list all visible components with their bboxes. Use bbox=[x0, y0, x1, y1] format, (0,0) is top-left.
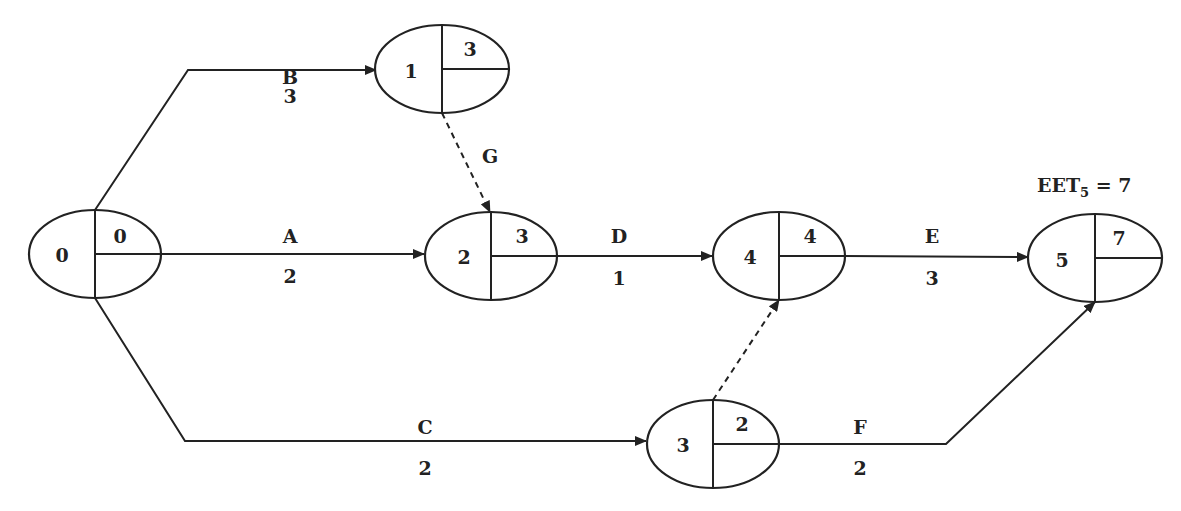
activity-c-label: C bbox=[417, 416, 432, 438]
node-0: 0 0 bbox=[29, 210, 161, 298]
activity-d-duration: 1 bbox=[612, 267, 625, 289]
activity-b-duration: 3 bbox=[283, 85, 296, 107]
activity-b-arrow bbox=[95, 70, 376, 210]
node-2: 2 3 bbox=[425, 212, 557, 300]
activity-f-arrow bbox=[779, 302, 1095, 444]
node-2-id: 2 bbox=[457, 246, 470, 268]
node-2-eet: 3 bbox=[515, 225, 528, 247]
node-5-id: 5 bbox=[1055, 249, 1068, 271]
activity-f-duration: 2 bbox=[853, 457, 866, 479]
eet-annotation: EET5 = 7 bbox=[1037, 174, 1132, 200]
activity-c-arrow bbox=[95, 298, 646, 441]
node-5: 5 7 bbox=[1028, 214, 1162, 302]
node-1-eet: 3 bbox=[463, 38, 476, 60]
activity-e-duration: 3 bbox=[925, 267, 938, 289]
node-0-eet: 0 bbox=[113, 225, 126, 247]
node-3-id: 3 bbox=[676, 434, 689, 456]
node-4-eet: 4 bbox=[803, 225, 816, 247]
node-0-id: 0 bbox=[55, 244, 68, 266]
activity-f-label: F bbox=[853, 416, 867, 438]
network-diagram: B 3 A 2 C 2 G D 1 E 3 F 2 0 0 1 3 2 3 4 … bbox=[0, 0, 1181, 511]
node-1: 1 3 bbox=[375, 25, 509, 113]
activity-e-arrow bbox=[845, 256, 1028, 257]
activity-e-label: E bbox=[925, 225, 939, 247]
activity-a-label: A bbox=[282, 225, 298, 247]
node-4: 4 4 bbox=[713, 212, 845, 300]
activity-c-duration: 2 bbox=[418, 457, 431, 479]
dummy-g-label: G bbox=[482, 145, 498, 167]
node-1-id: 1 bbox=[404, 60, 417, 82]
node-3: 3 2 bbox=[647, 400, 779, 488]
activity-d-label: D bbox=[611, 225, 627, 247]
node-4-id: 4 bbox=[743, 246, 756, 268]
activity-a-duration: 2 bbox=[283, 265, 296, 287]
dummy-3-4-arrow bbox=[713, 300, 779, 400]
node-5-eet: 7 bbox=[1112, 227, 1125, 249]
node-3-eet: 2 bbox=[735, 413, 748, 435]
